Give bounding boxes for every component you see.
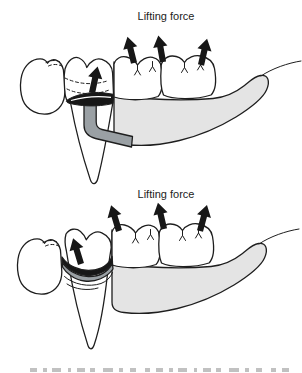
lifting-force-label-top: Lifting force [138,10,195,22]
canine-tooth-top [20,59,64,114]
denture-base-unit-top [114,56,301,146]
lifting-force-label-bottom: Lifting force [138,188,195,200]
top-panel: Lifting force [20,10,301,184]
dental-figure: Lifting force Lifting force [0,0,302,373]
bottom-panel: Lifting force [17,188,299,349]
canine-tooth-bottom [17,239,61,294]
denture-base-unit-bottom [112,224,299,314]
figure-canvas: Lifting force Lifting force [0,0,302,373]
